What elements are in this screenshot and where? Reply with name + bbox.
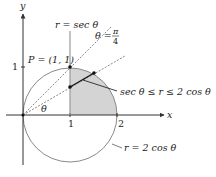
theta-pi4-label-prefix: θ = — [95, 30, 112, 41]
polar-region-diagram: y x 1 2 1 r = sec θ θ = π 4 P = (1, 1) s… — [0, 0, 216, 177]
y-tick-label-1: 1 — [12, 61, 18, 72]
y-axis-label: y — [19, 0, 26, 11]
origin-dot — [22, 114, 25, 117]
sec-line-label: r = sec θ — [55, 19, 98, 30]
point-sec-dot — [68, 85, 72, 89]
theta-pi4-num: π — [112, 27, 119, 36]
shaded-region — [70, 68, 117, 115]
point-p-dot — [68, 65, 72, 69]
point-p-label: P = (1, 1) — [27, 54, 74, 65]
x-tick-label-1: 1 — [68, 118, 74, 129]
region-label: sec θ ≤ r ≤ 2 cos θ — [120, 86, 211, 97]
x-tick-label-2: 2 — [118, 118, 124, 129]
circle-leader — [112, 144, 122, 148]
angle-theta-label: θ — [41, 103, 47, 114]
theta-pi4-den: 4 — [113, 37, 118, 46]
x-axis-label: x — [167, 109, 173, 120]
point-circle-dot — [92, 71, 96, 75]
circle-label: r = 2 cos θ — [124, 142, 177, 153]
